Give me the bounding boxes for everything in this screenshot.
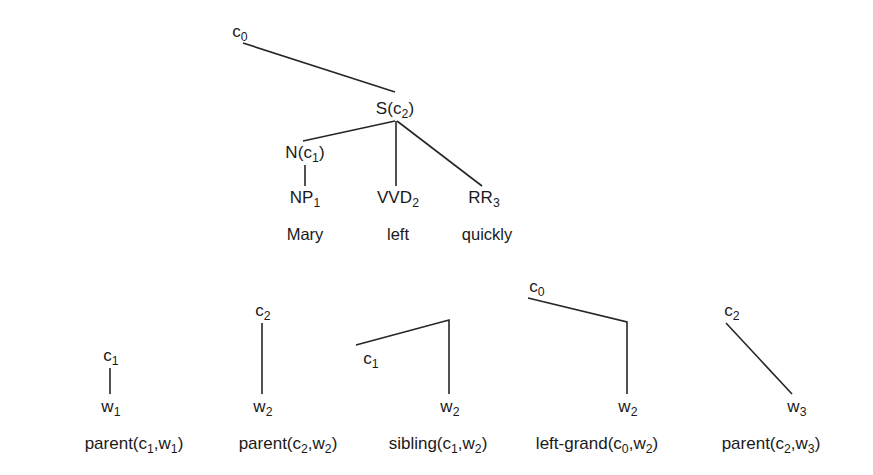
terminal-word-quickly: quickly: [462, 226, 512, 243]
relation-caption-parent-c2-w3: parent(c2,w3): [722, 435, 821, 452]
tree-edges-layer: [0, 0, 873, 475]
relation-parent-c2-w2-node-top: c2: [255, 302, 271, 319]
terminal-word-mary: Mary: [287, 226, 324, 243]
main-tree-edge-root-to-s: [243, 43, 395, 92]
main-tree-edge-s-to-n: [303, 121, 395, 141]
main-tree-node-root: c0: [232, 23, 248, 40]
relation-left-grand-c0-w2-node-bottom: w2: [618, 398, 637, 415]
relation-sibling-c1-w2-node-bottom: w2: [440, 398, 459, 415]
relation-parent-c2-w3-edge: [726, 323, 792, 394]
main-tree-node-n: N(c1): [285, 144, 324, 161]
main-tree-node-vvd: VVD2: [377, 189, 419, 206]
relation-caption-parent-c1-w1: parent(c1,w1): [85, 435, 184, 452]
relation-sibling-c1-w2-node-left: c1: [363, 350, 379, 367]
terminal-word-left: left: [387, 226, 409, 243]
relation-parent-c2-w3-node-top: c2: [724, 302, 740, 319]
relation-parent-c2-w2-node-bottom: w2: [253, 398, 272, 415]
relation-parent-c2-w3-node-bottom: w3: [787, 398, 806, 415]
relation-caption-left-grand-c0-w2: left-grand(c0,w2): [536, 435, 658, 452]
relation-caption-parent-c2-w2: parent(c2,w2): [239, 435, 338, 452]
main-tree-node-s: S(c2): [376, 100, 414, 117]
relation-caption-sibling-c1-w2: sibling(c1,w2): [389, 435, 488, 452]
relation-left-grand-c0-w2-edge: [528, 298, 627, 394]
relation-parent-c1-w1-node-bottom: w1: [101, 398, 120, 415]
main-tree-node-rr: RR3: [468, 189, 500, 206]
syntax-tree-figure: c0S(c2)N(c1)NP1VVD2RR3Maryleftquicklyc1w…: [0, 0, 873, 475]
relation-left-grand-c0-w2-node-top: c0: [529, 278, 545, 295]
main-tree-edge-s-to-rr: [397, 121, 482, 186]
main-tree-node-np: NP1: [290, 189, 321, 206]
relation-parent-c1-w1-node-top: c1: [103, 347, 119, 364]
